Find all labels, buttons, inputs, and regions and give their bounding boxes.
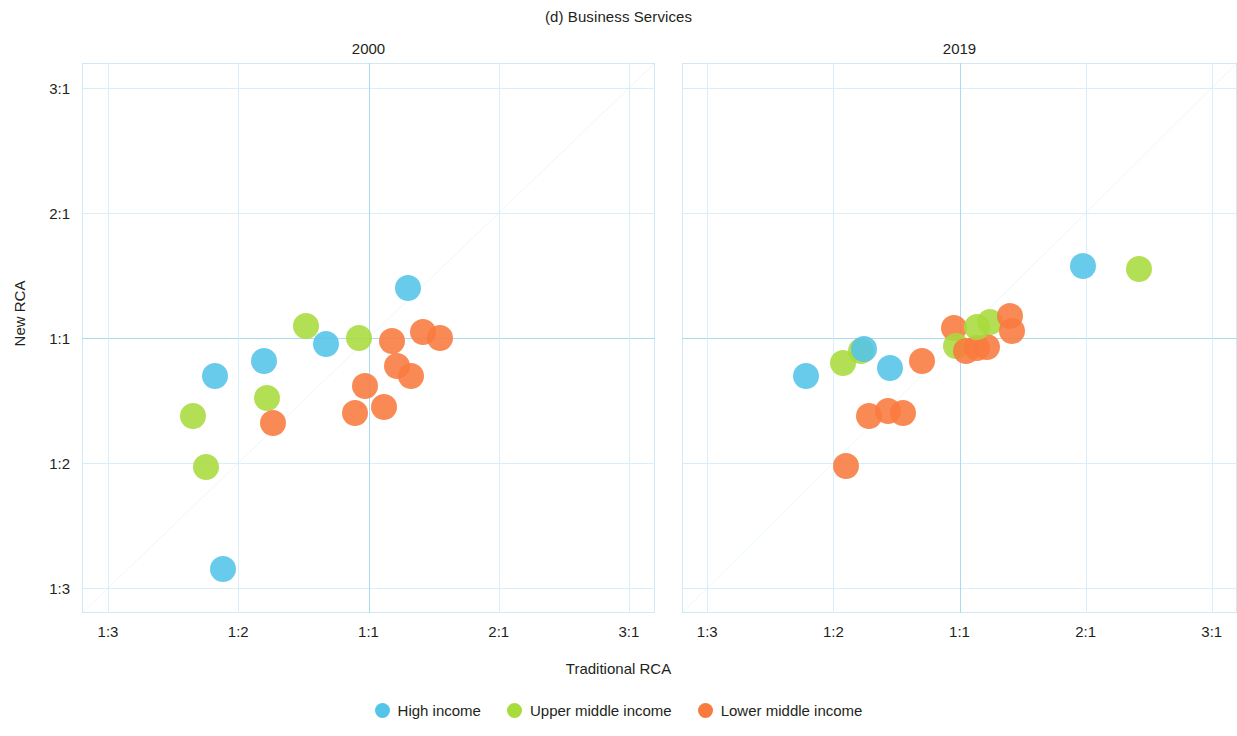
scatter-point — [180, 403, 206, 429]
figure-root: (d) Business Services 2000 2019 New RCA … — [0, 0, 1237, 736]
scatter-point — [342, 400, 368, 426]
scatter-point — [202, 363, 228, 389]
y-tick-label: 1:3 — [49, 580, 70, 597]
x-tick-label: 1:3 — [697, 623, 718, 640]
scatter-point — [877, 355, 903, 381]
x-tick-label: 2:1 — [488, 623, 509, 640]
x-tick-label: 3:1 — [1201, 623, 1222, 640]
scatter-point — [313, 331, 339, 357]
y-tick-label: 3:1 — [49, 80, 70, 97]
legend-swatch-icon — [698, 703, 713, 718]
scatter-point — [346, 325, 372, 351]
scatter-point — [193, 454, 219, 480]
scatter-point — [371, 394, 397, 420]
legend-swatch-icon — [375, 703, 390, 718]
scatter-panel-2019: 1:31:21:12:13:1 — [682, 63, 1237, 613]
scatter-point — [395, 275, 421, 301]
scatter-point — [398, 363, 424, 389]
panel-title-2019: 2019 — [682, 40, 1237, 57]
scatter-point — [793, 363, 819, 389]
x-tick-label: 1:2 — [823, 623, 844, 640]
scatter-point — [833, 453, 859, 479]
x-tick-label: 1:1 — [949, 623, 970, 640]
legend-item[interactable]: Lower middle income — [698, 702, 863, 719]
x-tick-label: 2:1 — [1075, 623, 1096, 640]
scatter-point — [851, 336, 877, 362]
x-axis-label: Traditional RCA — [0, 660, 1237, 677]
x-tick-label: 1:1 — [358, 623, 379, 640]
scatter-panel-2000: 3:12:11:11:21:31:31:21:12:13:1 — [82, 63, 655, 613]
scatter-point — [352, 373, 378, 399]
y-axis-label: New RCA — [11, 269, 28, 359]
scatter-point — [1070, 253, 1096, 279]
scatter-point — [379, 328, 405, 354]
legend-label: Upper middle income — [530, 702, 672, 719]
scatter-point — [254, 385, 280, 411]
scatter-point — [1126, 256, 1152, 282]
panel-title-2000: 2000 — [82, 40, 655, 57]
legend-item[interactable]: High income — [375, 702, 481, 719]
scatter-point — [909, 348, 935, 374]
legend-swatch-icon — [507, 703, 522, 718]
y-tick-label: 2:1 — [49, 205, 70, 222]
legend-item[interactable]: Upper middle income — [507, 702, 672, 719]
scatter-point — [999, 318, 1025, 344]
scatter-point — [427, 325, 453, 351]
scatter-point — [260, 410, 286, 436]
legend-label: Lower middle income — [721, 702, 863, 719]
figure-title: (d) Business Services — [0, 8, 1237, 25]
y-tick-label: 1:1 — [49, 330, 70, 347]
legend-label: High income — [398, 702, 481, 719]
x-tick-label: 3:1 — [619, 623, 640, 640]
scatter-point — [210, 556, 236, 582]
x-tick-label: 1:2 — [228, 623, 249, 640]
y-tick-label: 1:2 — [49, 455, 70, 472]
legend: High incomeUpper middle incomeLower midd… — [0, 702, 1237, 719]
x-tick-label: 1:3 — [98, 623, 119, 640]
scatter-point — [251, 348, 277, 374]
scatter-point — [890, 400, 916, 426]
